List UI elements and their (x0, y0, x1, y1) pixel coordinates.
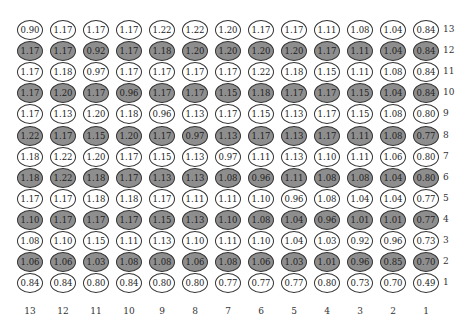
grid-cell: 0.49 (413, 273, 439, 293)
grid-cell: 0.77 (413, 189, 439, 209)
grid-cell: 1.20 (83, 104, 109, 124)
grid-cell: 1.17 (83, 20, 109, 40)
grid-cell: 1.17 (17, 104, 43, 124)
row-label: 3 (443, 235, 449, 245)
grid-cell: 1.04 (380, 189, 406, 209)
grid-cell: 1.13 (50, 104, 76, 124)
grid-cell: 1.06 (248, 252, 274, 272)
grid-cell: 1.17 (314, 126, 340, 146)
grid-cell: 0.84 (17, 273, 43, 293)
grid-cell: 1.10 (215, 210, 241, 230)
grid-cell: 1.17 (50, 126, 76, 146)
grid-cell: 1.06 (380, 147, 406, 167)
grid-cell: 1.22 (50, 168, 76, 188)
column-label: 7 (218, 306, 238, 316)
grid-cell: 1.10 (50, 231, 76, 251)
grid-cell: 1.10 (248, 189, 274, 209)
row-label: 7 (443, 151, 449, 161)
grid-cell: 1.10 (182, 231, 208, 251)
grid-cell: 1.15 (149, 210, 175, 230)
grid-cell: 0.85 (380, 252, 406, 272)
grid-cell: 1.08 (380, 62, 406, 82)
row-label: 10 (443, 87, 454, 97)
grid-cell: 0.77 (248, 273, 274, 293)
grid-cell: 1.08 (380, 126, 406, 146)
grid-cell: 1.06 (182, 252, 208, 272)
grid-cell: 0.97 (83, 62, 109, 82)
grid-cell: 1.18 (17, 168, 43, 188)
grid-cell: 1.13 (281, 104, 307, 124)
grid-cell: 1.17 (50, 41, 76, 61)
column-label: 9 (152, 306, 172, 316)
grid-cell: 1.17 (83, 83, 109, 103)
row-label: 13 (443, 24, 454, 34)
grid-cell: 0.77 (413, 210, 439, 230)
row-label: 6 (443, 172, 449, 182)
grid-cell: 1.13 (281, 126, 307, 146)
grid-cell: 1.11 (347, 41, 373, 61)
grid-cell: 1.08 (17, 231, 43, 251)
grid-cell: 1.17 (215, 104, 241, 124)
grid-cell: 1.11 (314, 20, 340, 40)
grid-cell: 1.08 (215, 252, 241, 272)
column-label: 10 (119, 306, 139, 316)
grid-cell: 1.10 (17, 210, 43, 230)
grid-cell: 1.17 (215, 62, 241, 82)
grid-cell: 1.15 (248, 104, 274, 124)
grid-cell: 1.11 (347, 62, 373, 82)
grid-cell: 1.22 (149, 20, 175, 40)
grid-cell: 1.17 (83, 210, 109, 230)
grid-cell: 1.08 (248, 210, 274, 230)
grid-cell: 0.97 (215, 147, 241, 167)
grid-cell: 1.13 (182, 147, 208, 167)
grid-cell: 1.17 (50, 20, 76, 40)
grid-cell: 1.18 (149, 41, 175, 61)
grid-cell: 1.10 (314, 147, 340, 167)
grid-cell: 0.80 (83, 273, 109, 293)
grid-cell: 0.84 (50, 273, 76, 293)
grid-cell: 1.01 (347, 210, 373, 230)
grid-cell: 1.03 (314, 231, 340, 251)
grid-cell: 1.17 (17, 189, 43, 209)
grid-cell: 1.11 (281, 168, 307, 188)
grid-cell: 1.20 (281, 41, 307, 61)
grid-cell: 0.80 (182, 273, 208, 293)
grid-cell: 0.96 (314, 210, 340, 230)
grid-cell: 0.90 (17, 20, 43, 40)
grid-cell: 1.04 (380, 168, 406, 188)
grid-cell: 1.13 (182, 168, 208, 188)
grid-cell: 0.96 (116, 83, 142, 103)
grid-cell: 1.17 (182, 83, 208, 103)
grid-cell: 0.92 (347, 231, 373, 251)
grid-cell: 0.84 (413, 83, 439, 103)
grid-cell: 0.77 (413, 126, 439, 146)
grid-cell: 1.22 (17, 126, 43, 146)
grid-cell: 1.11 (215, 231, 241, 251)
grid-cell: 1.20 (116, 126, 142, 146)
grid-cell: 1.18 (116, 189, 142, 209)
grid-cell: 0.80 (413, 104, 439, 124)
grid-cell: 1.06 (50, 252, 76, 272)
column-label: 6 (251, 306, 271, 316)
grid-cell: 1.20 (182, 41, 208, 61)
grid-cell: 1.11 (182, 189, 208, 209)
column-label: 11 (86, 306, 106, 316)
column-label: 2 (383, 306, 403, 316)
grid-cell: 1.15 (215, 83, 241, 103)
grid-cell: 1.08 (347, 168, 373, 188)
grid-cell: 1.11 (116, 231, 142, 251)
grid-cell: 1.17 (116, 62, 142, 82)
grid-cell: 1.17 (314, 83, 340, 103)
grid-cell: 1.15 (347, 83, 373, 103)
grid-cell: 1.01 (314, 252, 340, 272)
grid-cell: 1.17 (50, 210, 76, 230)
grid-cell: 1.11 (215, 189, 241, 209)
grid-cell: 1.18 (50, 62, 76, 82)
grid-cell: 1.17 (149, 83, 175, 103)
row-label: 2 (443, 256, 449, 266)
column-label: 13 (20, 306, 40, 316)
grid-cell: 1.18 (116, 104, 142, 124)
row-label: 8 (443, 130, 449, 140)
grid-cell: 1.08 (116, 252, 142, 272)
grid-cell: 1.08 (347, 20, 373, 40)
